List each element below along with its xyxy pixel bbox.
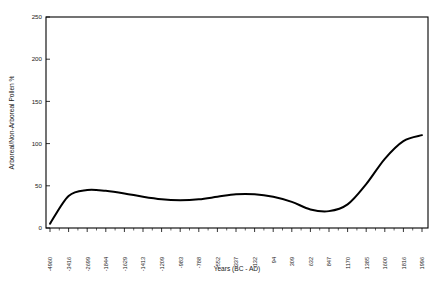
y-tick-label: 150 bbox=[32, 98, 43, 105]
plot-frame bbox=[46, 17, 428, 228]
x-axis-title: Years (BC - AD) bbox=[214, 265, 261, 273]
x-tick-label: -1844 bbox=[103, 257, 109, 271]
y-tick-group: 0 50 100 150 200 250 bbox=[32, 13, 50, 231]
x-tick-label: 1996 bbox=[419, 257, 425, 269]
x-tick-label: -3416 bbox=[66, 257, 72, 271]
y-axis: 0 50 100 150 200 250 Arboreal/Non-Arbore… bbox=[8, 13, 50, 231]
x-tick-label: -983 bbox=[178, 257, 184, 268]
y-tick-label: 100 bbox=[32, 140, 43, 147]
x-axis: -4960 -3416 -2699 -1844 -1629 -1413 -120… bbox=[47, 228, 425, 273]
y-axis-title: Arboreal/Non-Arboreal Pollen % bbox=[8, 75, 15, 169]
x-tick-label: -1629 bbox=[122, 257, 128, 271]
x-tick-label: 309 bbox=[289, 257, 295, 266]
x-tick-label: -1413 bbox=[140, 257, 146, 271]
x-tick-label: -788 bbox=[196, 257, 202, 268]
x-tick-label: 847 bbox=[326, 257, 332, 266]
x-tick-label: -2699 bbox=[85, 257, 91, 271]
x-tick-label: -4960 bbox=[47, 257, 53, 271]
x-tick-label: 1600 bbox=[382, 257, 388, 269]
y-tick-label: 0 bbox=[39, 224, 43, 231]
x-tick-label: 1385 bbox=[364, 257, 370, 269]
y-tick-label: 50 bbox=[35, 182, 42, 189]
pollen-line-chart: 0 50 100 150 200 250 Arboreal/Non-Arbore… bbox=[0, 0, 447, 281]
x-tick-label: 94 bbox=[271, 257, 277, 263]
x-tick-label: 1816 bbox=[401, 257, 407, 269]
pollen-curve bbox=[50, 135, 422, 224]
chart-figure: 0 50 100 150 200 250 Arboreal/Non-Arbore… bbox=[0, 0, 447, 281]
y-tick-label: 250 bbox=[32, 13, 43, 20]
y-tick-label: 200 bbox=[32, 55, 43, 62]
x-tick-label: -1209 bbox=[159, 257, 165, 271]
x-tick-label: 1170 bbox=[345, 257, 351, 269]
x-tick-label: 632 bbox=[308, 257, 314, 266]
